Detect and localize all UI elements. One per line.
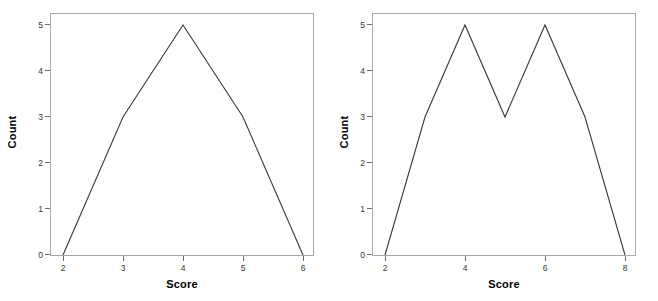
y-tick-mark-left-1 [45, 208, 50, 209]
y-tick-label-right-2: 2 [347, 158, 365, 168]
figure-container: Count Score 5 4 3 2 1 0 2 3 4 5 6 Count … [0, 0, 658, 301]
y-tick-mark-left-0 [45, 254, 50, 255]
x-tick-label-right-4: 4 [455, 263, 475, 273]
x-tick-label-right-2: 2 [375, 263, 395, 273]
y-tick-label-left-4: 4 [25, 66, 43, 76]
y-axis-title-left: Count [6, 108, 18, 156]
y-tick-label-left-5: 5 [25, 20, 43, 30]
y-tick-mark-right-4 [367, 70, 372, 71]
y-tick-label-right-5: 5 [347, 20, 365, 30]
y-tick-mark-right-0 [367, 254, 372, 255]
x-axis-title-right: Score [372, 278, 636, 290]
y-tick-mark-right-2 [367, 162, 372, 163]
chart-panel-right: Count Score 5 4 3 2 1 0 2 4 6 8 [330, 0, 658, 301]
chart-panel-left: Count Score 5 4 3 2 1 0 2 3 4 5 6 [0, 0, 330, 301]
x-tick-mark-right-8 [625, 256, 626, 261]
y-tick-mark-left-4 [45, 70, 50, 71]
y-tick-label-right-0: 0 [347, 250, 365, 260]
y-tick-label-right-3: 3 [347, 112, 365, 122]
x-tick-label-left-4: 4 [173, 263, 193, 273]
y-tick-mark-left-2 [45, 162, 50, 163]
y-tick-label-left-1: 1 [25, 204, 43, 214]
y-tick-label-right-4: 4 [347, 66, 365, 76]
x-tick-label-right-6: 6 [535, 263, 555, 273]
y-tick-label-left-3: 3 [25, 112, 43, 122]
x-tick-mark-left-4 [183, 256, 184, 261]
x-tick-label-left-6: 6 [293, 263, 313, 273]
x-tick-mark-left-6 [303, 256, 304, 261]
x-tick-mark-left-2 [63, 256, 64, 261]
x-tick-label-left-3: 3 [113, 263, 133, 273]
y-tick-label-right-1: 1 [347, 204, 365, 214]
x-tick-mark-right-6 [545, 256, 546, 261]
x-axis-title-left: Score [50, 278, 314, 290]
x-tick-label-left-5: 5 [233, 263, 253, 273]
x-tick-mark-left-3 [123, 256, 124, 261]
x-tick-label-left-2: 2 [53, 263, 73, 273]
y-tick-mark-right-1 [367, 208, 372, 209]
plot-frame-left [50, 13, 314, 256]
x-tick-label-right-8: 8 [615, 263, 635, 273]
plot-frame-right [372, 13, 636, 256]
y-tick-mark-left-3 [45, 116, 50, 117]
x-tick-mark-left-5 [243, 256, 244, 261]
y-tick-mark-right-3 [367, 116, 372, 117]
y-tick-label-left-2: 2 [25, 158, 43, 168]
x-tick-mark-right-4 [465, 256, 466, 261]
x-tick-mark-right-2 [385, 256, 386, 261]
y-tick-mark-left-5 [45, 24, 50, 25]
y-tick-label-left-0: 0 [25, 250, 43, 260]
y-tick-mark-right-5 [367, 24, 372, 25]
